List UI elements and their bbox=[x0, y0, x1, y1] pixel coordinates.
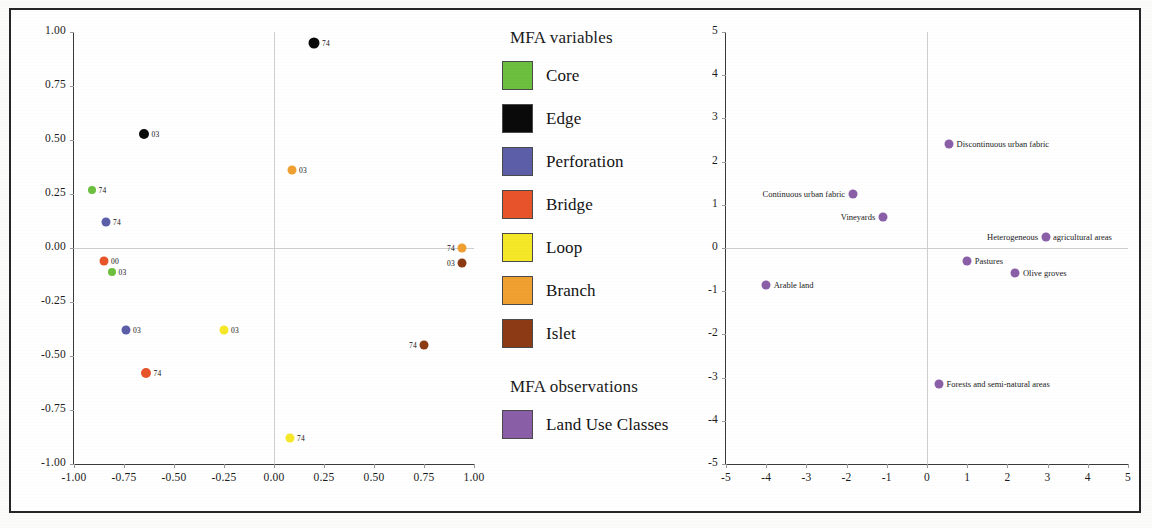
y-tick-label: 0.25 bbox=[26, 186, 66, 198]
legend-title-variables: MFA variables bbox=[510, 28, 692, 48]
x-tick bbox=[324, 464, 325, 468]
y-tick bbox=[70, 356, 74, 357]
data-point-label: 74 bbox=[113, 218, 121, 227]
figure-page: 74030374747400030303037474741.000.750.50… bbox=[0, 0, 1152, 528]
legend-item-label: Core bbox=[546, 66, 579, 86]
y-tick-label: 0 bbox=[678, 240, 718, 252]
y-tick-label: -1 bbox=[678, 283, 718, 295]
legend-item-perforation[interactable]: Perforation bbox=[502, 140, 692, 183]
x-tick-label: -0.25 bbox=[199, 471, 249, 483]
x-tick-label: -0.75 bbox=[99, 471, 149, 483]
y-tick bbox=[70, 302, 74, 303]
x-tick bbox=[174, 464, 175, 468]
legend-swatch-icon bbox=[502, 276, 533, 305]
legend-swatch-icon bbox=[502, 319, 533, 348]
y-tick-label: 0.00 bbox=[26, 240, 66, 252]
x-tick bbox=[274, 464, 275, 468]
legend-swatch-icon bbox=[502, 190, 533, 219]
legend-item-label: Perforation bbox=[546, 152, 624, 172]
y-tick-label: -5 bbox=[678, 456, 718, 468]
legend-item-loop[interactable]: Loop bbox=[502, 226, 692, 269]
data-point-label: Continuous urban fabric bbox=[763, 189, 846, 199]
y-tick-label: 0.50 bbox=[26, 132, 66, 144]
data-point bbox=[102, 218, 111, 227]
data-point bbox=[288, 166, 297, 175]
y-tick bbox=[722, 421, 726, 422]
y-tick bbox=[722, 118, 726, 119]
x-tick-label: 0.00 bbox=[249, 471, 299, 483]
plot-area: Discontinuous urban fabricContinuous urb… bbox=[726, 32, 1128, 464]
legend-item-islet[interactable]: Islet bbox=[502, 312, 692, 355]
y-tick bbox=[722, 205, 726, 206]
data-point-label: Vineyards bbox=[841, 212, 875, 222]
x-tick bbox=[887, 464, 888, 468]
data-point-label: Olive groves bbox=[1023, 268, 1067, 278]
y-tick bbox=[70, 32, 74, 33]
x-tick-label: -0.50 bbox=[149, 471, 199, 483]
y-tick-label: 2 bbox=[678, 154, 718, 166]
y-tick-label: -0.50 bbox=[26, 348, 66, 360]
legend-item-branch[interactable]: Branch bbox=[502, 269, 692, 312]
data-point bbox=[220, 326, 229, 335]
x-tick bbox=[847, 464, 848, 468]
mfa-variables-plot: 74030374747400030303037474741.000.750.50… bbox=[22, 22, 482, 492]
data-point-label: 03 bbox=[152, 129, 160, 138]
legend-item-core[interactable]: Core bbox=[502, 54, 692, 97]
data-point bbox=[1011, 269, 1020, 278]
data-point bbox=[108, 268, 116, 276]
legend-item-label: Islet bbox=[546, 324, 576, 344]
legend-item-edge[interactable]: Edge bbox=[502, 97, 692, 140]
y-tick-label: -0.75 bbox=[26, 402, 66, 414]
data-point-label: 74 bbox=[99, 185, 107, 194]
data-point-label: 74 bbox=[297, 434, 305, 443]
x-tick bbox=[806, 464, 807, 468]
y-tick-label: -2 bbox=[678, 326, 718, 338]
data-point-label: Forests and semi-natural areas bbox=[947, 379, 1050, 389]
data-point bbox=[88, 186, 96, 194]
x-tick-label: 1.00 bbox=[449, 471, 499, 483]
data-point bbox=[945, 140, 954, 149]
y-tick-label: 5 bbox=[678, 24, 718, 36]
data-point bbox=[458, 244, 467, 253]
data-point bbox=[122, 326, 131, 335]
x-tick-label: 0.75 bbox=[399, 471, 449, 483]
legend-item-label: Land Use Classes bbox=[546, 415, 668, 435]
y-tick-label: -4 bbox=[678, 413, 718, 425]
x-tick bbox=[766, 464, 767, 468]
y-tick bbox=[722, 334, 726, 335]
x-tick bbox=[424, 464, 425, 468]
y-tick bbox=[722, 32, 726, 33]
legend-item-bridge[interactable]: Bridge bbox=[502, 183, 692, 226]
data-point bbox=[963, 256, 972, 265]
legend-item-land-use-classes[interactable]: Land Use Classes bbox=[502, 403, 692, 446]
legend-item-label: Loop bbox=[546, 238, 582, 258]
y-tick bbox=[70, 248, 74, 249]
data-point-label: 00 bbox=[111, 256, 119, 265]
legend-swatch-icon bbox=[502, 104, 533, 133]
y-tick bbox=[70, 194, 74, 195]
data-point-label: 74 bbox=[409, 341, 417, 350]
legend-title-observations: MFA observations bbox=[510, 377, 692, 397]
x-tick bbox=[967, 464, 968, 468]
y-tick bbox=[722, 291, 726, 292]
legend-item-label: Branch bbox=[546, 281, 596, 301]
y-tick bbox=[722, 75, 726, 76]
y-tick-label: 1 bbox=[678, 197, 718, 209]
x-tick bbox=[474, 464, 475, 468]
mfa-observations-plot: Discontinuous urban fabricContinuous urb… bbox=[700, 22, 1138, 492]
y-tick bbox=[722, 378, 726, 379]
legend-item-label: Edge bbox=[546, 109, 581, 129]
y-tick-label: 0.75 bbox=[26, 78, 66, 90]
x-tick bbox=[74, 464, 75, 468]
data-point-label: Heterogeneous bbox=[987, 232, 1038, 242]
y-tick bbox=[722, 162, 726, 163]
data-point bbox=[458, 259, 467, 268]
y-tick bbox=[70, 410, 74, 411]
y-tick bbox=[70, 86, 74, 87]
legend-item-label: Bridge bbox=[546, 195, 593, 215]
y-tick-label: 1.00 bbox=[26, 24, 66, 36]
legend-swatch-icon bbox=[502, 61, 533, 90]
x-tick bbox=[1088, 464, 1089, 468]
legend: MFA variables CoreEdgePerforationBridgeL… bbox=[502, 28, 692, 446]
legend-variables-list: CoreEdgePerforationBridgeLoopBranchIslet bbox=[502, 54, 692, 355]
